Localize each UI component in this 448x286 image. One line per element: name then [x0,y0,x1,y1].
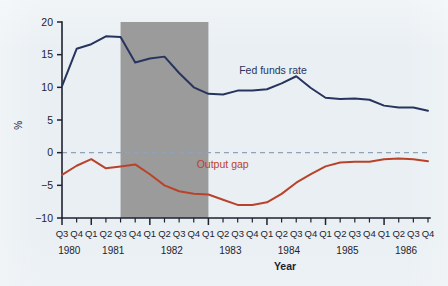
recession-band-group [121,22,209,218]
x-quarter-label: Q4 [422,228,435,239]
x-year-label: 1981 [102,245,125,256]
x-year-label: 1982 [161,245,184,256]
y-tick-label: −5 [41,179,53,191]
x-quarter-label: Q2 [217,228,230,239]
x-quarter-label: Q4 [246,228,259,239]
x-axis-title: Year [274,260,296,272]
line-chart-svg: 20151050−5−10 Q3Q4Q1Q2Q3Q4Q1Q2Q3Q4Q1Q2Q3… [0,0,448,286]
x-quarter-label: Q3 [56,228,69,239]
x-quarter-label: Q3 [407,228,420,239]
x-quarter-label: Q4 [187,228,200,239]
x-axis-group: Q3Q4Q1Q2Q3Q4Q1Q2Q3Q4Q1Q2Q3Q4Q1Q2Q3Q4Q1Q2… [56,218,435,256]
figure-container: 20151050−5−10 Q3Q4Q1Q2Q3Q4Q1Q2Q3Q4Q1Q2Q3… [0,0,448,286]
x-quarter-label: Q3 [114,228,127,239]
x-year-label: 1984 [278,245,301,256]
x-quarter-label: Q1 [143,228,156,239]
x-quarter-label: Q2 [334,228,347,239]
x-year-label: 1980 [58,245,81,256]
x-quarter-label: Q1 [378,228,391,239]
series-label-fed-funds-rate: Fed funds rate [239,64,307,76]
x-quarter-label: Q3 [173,228,186,239]
x-tick-marks [62,218,428,225]
x-quarter-label: Q1 [319,228,332,239]
y-tick-label: 15 [41,48,53,60]
x-quarter-label: Q1 [261,228,274,239]
series-label-output-gap: Output gap [197,158,249,170]
x-quarter-label: Q3 [231,228,244,239]
x-quarter-label: Q2 [275,228,288,239]
recession-shaded-band [121,22,209,218]
x-quarter-label: Q2 [158,228,171,239]
x-quarter-label: Q4 [129,228,142,239]
x-year-labels: 1980198119821983198419851986 [58,245,417,256]
y-tick-label: 0 [47,146,53,158]
y-axis-title: % [13,121,24,130]
y-axis-group: 20151050−5−10 [35,16,62,224]
x-year-label: 1986 [395,245,418,256]
x-quarter-label: Q2 [100,228,113,239]
x-quarter-label: Q3 [290,228,303,239]
y-tick-label: 10 [41,81,53,93]
x-quarter-label: Q2 [392,228,405,239]
x-year-label: 1983 [219,245,242,256]
x-quarter-label: Q4 [70,228,83,239]
x-quarter-label: Q4 [305,228,318,239]
y-tick-label: −10 [35,212,53,224]
x-quarter-label: Q1 [202,228,215,239]
series-group [62,36,428,205]
y-tick-label: 5 [47,114,53,126]
x-quarter-labels: Q3Q4Q1Q2Q3Q4Q1Q2Q3Q4Q1Q2Q3Q4Q1Q2Q3Q4Q1Q2… [56,228,435,239]
x-quarter-label: Q1 [85,228,98,239]
x-quarter-label: Q4 [363,228,376,239]
y-tick-label: 20 [41,16,53,28]
y-tick-labels: 20151050−5−10 [35,16,53,224]
chart-screenshot: 20151050−5−10 Q3Q4Q1Q2Q3Q4Q1Q2Q3Q4Q1Q2Q3… [0,0,448,286]
x-quarter-label: Q3 [348,228,361,239]
x-year-label: 1985 [336,245,359,256]
